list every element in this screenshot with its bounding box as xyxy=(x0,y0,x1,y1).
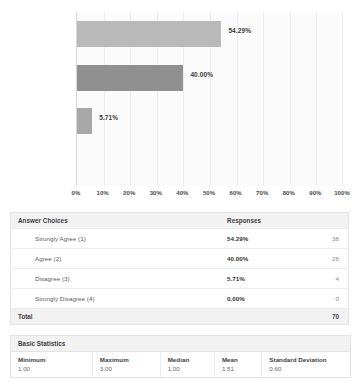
responses-table-body: Strongly Agree (1)54.29%38Agree (2)40.00… xyxy=(11,229,349,309)
cell-response-percent: 40.00% xyxy=(220,249,308,269)
bar-agree[interactable] xyxy=(77,65,183,91)
basic-statistics-title: Basic Statistics xyxy=(11,336,350,352)
bar-row-agree: 40.00% Agree xyxy=(77,56,343,100)
stat-cell: Median1.00 xyxy=(160,352,214,377)
bar-value-disagree: 5.71% xyxy=(99,114,118,121)
stat-cell: Mean1.51 xyxy=(214,352,261,377)
stat-value: 3.00 xyxy=(100,365,160,372)
x-axis-tick: 80% xyxy=(283,190,295,196)
x-axis-tick: 30% xyxy=(150,190,162,196)
bar-value-agree: 40.00% xyxy=(190,71,213,78)
stat-label: Mean xyxy=(222,356,261,363)
stat-value: 0.60 xyxy=(269,365,350,372)
cell-answer-choice: Strongly Agree (1) xyxy=(11,229,221,249)
chart-plot-area: 54.29% Strongly Agree 40.00% Agree 5.71%… xyxy=(76,12,343,186)
stat-cell: Maximum3.00 xyxy=(92,352,160,377)
x-axis-tick: 10% xyxy=(97,190,109,196)
statistics-row: Minimum1.00Maximum3.00Median1.00Mean1.51… xyxy=(11,352,350,377)
cell-answer-choice: Disagree (3) xyxy=(11,269,221,289)
cell-answer-choice: Strongly Disagree (4) xyxy=(11,289,221,309)
stat-label: Median xyxy=(168,356,214,363)
x-axis-tick: 90% xyxy=(309,190,321,196)
stat-value: 1.00 xyxy=(168,365,214,372)
cell-response-count: 4 xyxy=(308,269,349,289)
total-percent xyxy=(220,309,308,325)
bar-row-disagree: 5.71% Disagree xyxy=(77,99,343,143)
table-total-row: Total 70 xyxy=(11,309,349,325)
table-row: Strongly Disagree (4)0.00%0 xyxy=(11,289,349,309)
header-responses: Responses xyxy=(220,213,308,229)
total-count: 70 xyxy=(308,309,349,325)
stat-value: 1.00 xyxy=(18,365,92,372)
table-row: Strongly Agree (1)54.29%38 xyxy=(11,229,349,249)
x-axis-tick: 50% xyxy=(203,190,215,196)
stat-cell: Standard Deviation0.60 xyxy=(262,352,350,377)
cell-answer-choice: Agree (2) xyxy=(11,249,221,269)
stat-label: Standard Deviation xyxy=(269,356,350,363)
x-axis-tick: 100% xyxy=(334,190,350,196)
cell-response-percent: 5.71% xyxy=(220,269,308,289)
total-label: Total xyxy=(11,309,221,325)
x-axis-tick: 0% xyxy=(72,190,81,196)
basic-statistics-panel: Basic Statistics Minimum1.00Maximum3.00M… xyxy=(10,335,351,378)
x-axis-tick: 40% xyxy=(176,190,188,196)
table-row: Disagree (3)5.71%4 xyxy=(11,269,349,289)
chart-x-axis: 0%10%20%30%40%50%60%70%80%90%100% xyxy=(76,190,342,204)
cell-response-percent: 54.29% xyxy=(220,229,308,249)
bar-row-strongly-disagree: Strongly Disagree xyxy=(77,143,343,187)
x-axis-tick: 70% xyxy=(256,190,268,196)
table-row: Agree (2)40.00%28 xyxy=(11,249,349,269)
cell-response-percent: 0.00% xyxy=(220,289,308,309)
stat-label: Minimum xyxy=(18,356,92,363)
bar-disagree[interactable] xyxy=(77,108,92,134)
stat-value: 1.51 xyxy=(222,365,261,372)
cell-response-count: 28 xyxy=(308,249,349,269)
x-axis-tick: 60% xyxy=(230,190,242,196)
cell-response-count: 38 xyxy=(308,229,349,249)
header-count xyxy=(308,213,349,229)
basic-statistics-table: Minimum1.00Maximum3.00Median1.00Mean1.51… xyxy=(11,352,350,377)
header-answer-choices: Answer Choices xyxy=(11,213,221,229)
survey-bar-chart: 54.29% Strongly Agree 40.00% Agree 5.71%… xyxy=(0,0,359,212)
bar-strongly-agree[interactable] xyxy=(77,21,221,47)
bar-value-strongly-agree: 54.29% xyxy=(228,27,251,34)
stat-label: Maximum xyxy=(100,356,160,363)
table-header-row: Answer Choices Responses xyxy=(11,213,349,229)
stat-cell: Minimum1.00 xyxy=(11,352,92,377)
responses-table: Answer Choices Responses Strongly Agree … xyxy=(10,212,349,325)
bar-row-strongly-agree: 54.29% Strongly Agree xyxy=(77,12,343,56)
x-axis-tick: 20% xyxy=(123,190,135,196)
cell-response-count: 0 xyxy=(308,289,349,309)
